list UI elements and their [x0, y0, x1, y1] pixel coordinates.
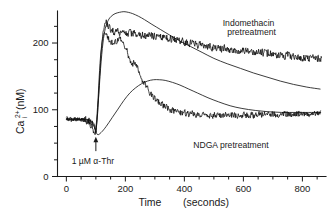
stimulus-arrow: [93, 137, 98, 151]
calcium-time-course-chart: 0100200 0200400600800 1 µM α-Thr Indomet…: [0, 0, 333, 224]
y-tick-label: 100: [33, 104, 49, 115]
series-label-ndga: NDGA pretreatment: [193, 140, 269, 150]
series-label-indomethacin-line2: pretreatment: [227, 27, 276, 37]
x-axis-title: Time (seconds): [139, 196, 230, 208]
y-axis-title-superscript: 2+: [14, 110, 21, 118]
stimulus-label: 1 µM α-Thr: [72, 156, 115, 166]
y-axis-title: Ca 2+ i (nM): [14, 88, 28, 134]
y-axis-tick-labels: 0100200: [33, 37, 49, 181]
stimulus-arrow-head: [93, 137, 98, 143]
curve-ndga-envelope: [66, 80, 320, 135]
x-axis-title-main: Time: [139, 196, 162, 208]
x-axis-tick-labels: 0200400600800: [64, 183, 311, 194]
y-axis-ticks: [52, 26, 58, 176]
x-tick-label: 0: [64, 183, 69, 194]
y-axis-title-subscript: i: [21, 116, 28, 118]
y-axis-title-base: Ca: [14, 120, 26, 134]
y-tick-label: 0: [43, 171, 48, 182]
x-tick-label: 600: [235, 183, 251, 194]
figure-container: 0100200 0200400600800 1 µM α-Thr Indomet…: [0, 0, 333, 224]
x-axis-ticks: [66, 177, 317, 182]
x-tick-label: 800: [294, 183, 310, 194]
y-axis-title-units: (nM): [14, 88, 26, 110]
data-curves-group: [66, 12, 321, 135]
x-tick-label: 400: [176, 183, 192, 194]
x-tick-label: 200: [117, 183, 133, 194]
x-axis-title-units: (seconds): [183, 196, 229, 208]
y-tick-label: 200: [33, 37, 49, 48]
